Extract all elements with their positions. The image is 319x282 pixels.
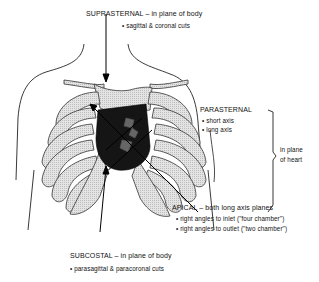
heart-plane-line2: of heart [280,156,302,164]
subcostal-bullet: • parasagittal & paracoronal cuts [70,265,164,273]
parasternal-bullet-short-axis: • short axis [202,117,234,125]
apical-title: APICAL – both long axis planes [172,204,273,212]
thorax-illustration [0,0,319,282]
heart-plane-line1: in plane [280,146,303,154]
suprasternal-bullet: • sagittal & coronal cuts [122,22,190,30]
apical-bullet-inlet: • right angles to inlet ("four chamber") [176,215,284,223]
apical-bullet-outlet: • right angles to outlet ("two chamber") [176,225,287,233]
subcostal-title: SUBCOSTAL – in plane of body [70,252,172,260]
parasternal-bullet-long-axis: • long axis [202,126,232,134]
parasternal-title: PARASTERNAL [200,106,252,114]
suprasternal-title: SUPRASTERNAL – in plane of body [86,10,202,18]
bracket [268,110,276,212]
